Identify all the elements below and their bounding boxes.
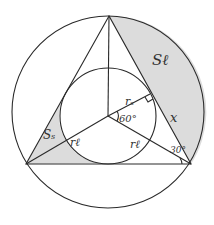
- radius-to-top-vertex: [108, 16, 109, 116]
- small-shaded-region: [26, 103, 96, 164]
- label-inradius-top: rₛ: [125, 95, 134, 108]
- label-vertex-angle: 30°: [170, 145, 186, 155]
- label-circumradius-right: rℓ: [130, 138, 140, 151]
- label-center-angle: 60°: [119, 113, 137, 124]
- geometry-diagram: Sℓ Sₛ rₛ rℓ rℓ 60° x 30°: [0, 0, 214, 225]
- label-small-region: Sₛ: [43, 128, 55, 142]
- large-shaded-segment: [109, 16, 206, 164]
- label-inradius-left: rℓ: [70, 136, 80, 149]
- label-side-segment: x: [170, 110, 178, 125]
- label-large-region: Sℓ: [152, 51, 169, 69]
